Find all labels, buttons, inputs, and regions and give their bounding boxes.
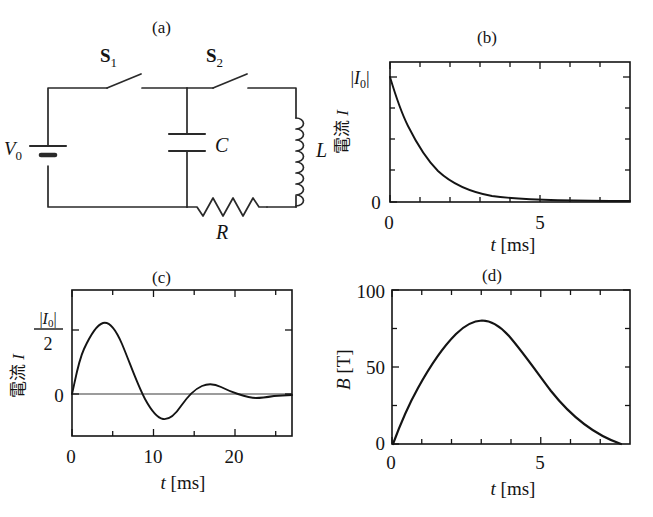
capacitor-label: C [215, 134, 229, 156]
panel-c-frame [72, 290, 292, 436]
resistor-label: R [215, 221, 228, 243]
panel-d-ytick-50: 50 [366, 357, 385, 378]
panel-d-xtick-5: 5 [535, 452, 545, 473]
panel-c-xtick-10: 10 [144, 446, 163, 467]
switch-s2-blade [213, 74, 247, 88]
panel-c-xtick-0: 0 [66, 446, 76, 467]
four-panel-figure: (a) [0, 0, 653, 517]
resistor-zigzag [187, 198, 267, 216]
wire-left-top [48, 88, 107, 146]
panel-b-xtick-5: 5 [535, 212, 545, 233]
panel-a-circuit: (a) [0, 0, 335, 255]
panel-b-svg: |I0| 0 0 5 t [ms] 電流 I [330, 14, 653, 255]
panel-a-label: (a) [152, 18, 171, 38]
panel-b-ytick-top: |I0| [350, 68, 369, 91]
panel-b-frame [390, 62, 630, 202]
wire-bottom-left [48, 166, 187, 207]
inductor-coil [296, 118, 304, 206]
inductor-label: L [315, 139, 327, 161]
panel-c-chart: (c) [0, 258, 335, 517]
panel-b-label: (b) [477, 28, 497, 48]
panel-b-curve [390, 77, 630, 201]
panel-b-xticks [390, 62, 600, 202]
panel-d-xtick-0: 0 [386, 452, 396, 473]
wire-inductor-to-resistor [267, 196, 296, 207]
panel-d-ytick-100: 100 [357, 281, 386, 302]
battery-label: V0 [4, 138, 22, 163]
panel-c-xtick-20: 20 [225, 446, 244, 467]
panel-c-ytick-den: 2 [44, 334, 53, 354]
panel-b-chart: (b) [330, 14, 653, 255]
circuit-svg: S1 S2 V0 C L R [0, 0, 335, 255]
panel-d-yticks [392, 290, 630, 444]
panel-d-curve [393, 321, 621, 445]
panel-d-label: (d) [482, 266, 502, 286]
panel-c-ytick-zero: 0 [54, 385, 64, 406]
panel-d-chart: (d) [330, 258, 653, 517]
svg-text:電流 I: 電流 I [8, 353, 28, 398]
panel-d-ytick-0: 0 [376, 433, 386, 454]
switch-s2-label: S2 [206, 45, 223, 70]
panel-d-svg: 100 50 0 0 5 t [ms] B [T] [330, 258, 653, 517]
svg-text:B [T]: B [T] [333, 349, 354, 390]
panel-d-xlabel: t [ms] [491, 478, 536, 499]
panel-c-ytick-num: |I0| [39, 310, 56, 329]
panel-c-svg: |I0| 2 0 0 10 20 t [ms] 電流 I [0, 258, 335, 517]
panel-c-ylabel: 電流 I [8, 353, 28, 398]
panel-b-ylabel: 電流 I [332, 109, 352, 154]
panel-d-ylabel: B [T] [333, 349, 354, 390]
panel-d-frame [392, 290, 630, 444]
battery-symbol [30, 146, 66, 155]
panel-d-xticks [392, 290, 600, 444]
panel-c-label: (c) [152, 268, 171, 288]
svg-text:電流 I: 電流 I [332, 109, 352, 154]
switch-s1-blade [107, 74, 141, 88]
panel-b-ytick-zero: 0 [371, 192, 381, 213]
panel-b-xlabel: t [ms] [491, 234, 536, 255]
switch-s1-label: S1 [100, 45, 117, 70]
panel-b-yticks [390, 77, 630, 202]
wire-s2-to-inductor [248, 88, 296, 118]
panel-c-yticks [72, 330, 292, 394]
panel-c-curve [72, 323, 292, 419]
capacitor-symbol [169, 134, 205, 151]
panel-c-xlabel: t [ms] [161, 472, 206, 493]
panel-b-xtick-0: 0 [384, 212, 394, 233]
